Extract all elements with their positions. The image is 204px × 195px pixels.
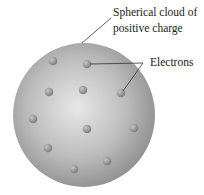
electron	[44, 144, 53, 153]
electron	[130, 124, 139, 133]
electron	[70, 165, 79, 174]
electron	[79, 86, 88, 95]
electron	[83, 125, 92, 134]
cloud-label-line1: Spherical cloud of	[113, 5, 197, 20]
electron	[29, 115, 38, 124]
cloud-leader-line	[82, 18, 111, 43]
cloud-label-line2: positive charge	[113, 21, 183, 36]
electrons-label: Electrons	[150, 55, 193, 70]
electron	[49, 57, 58, 66]
electron	[45, 88, 54, 97]
electron	[103, 157, 112, 166]
